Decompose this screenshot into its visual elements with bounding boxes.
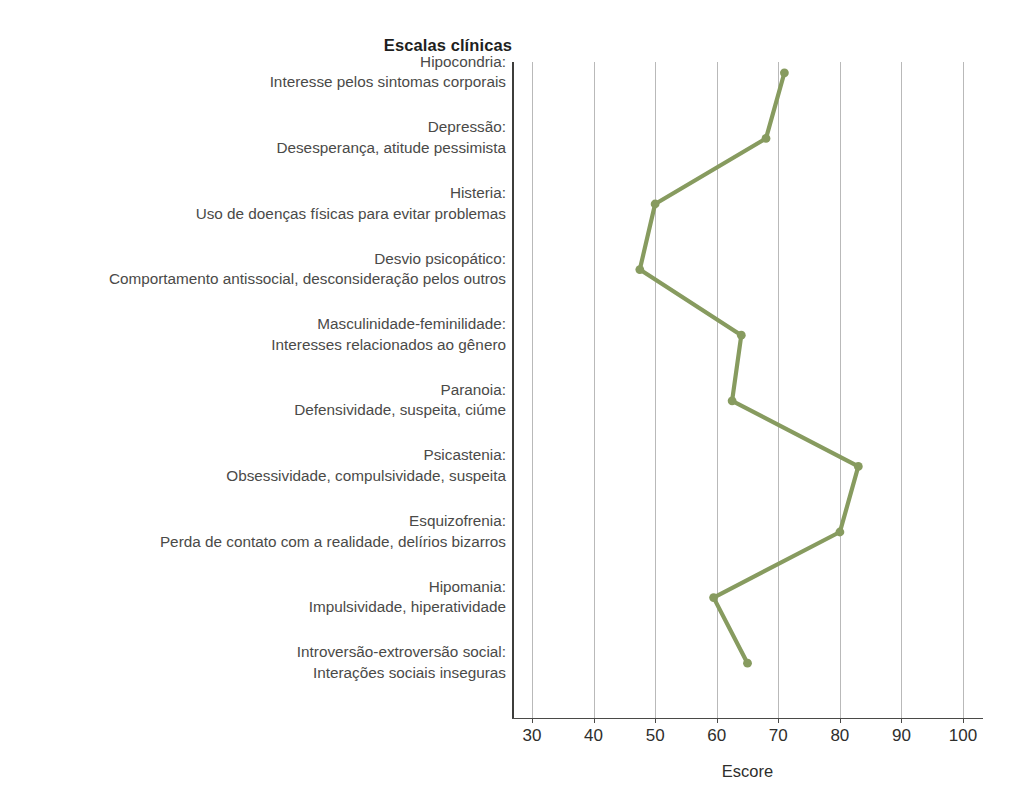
category-label: Esquizofrenia:Perda de contato com a rea… bbox=[0, 511, 506, 552]
category-description: Desesperança, atitude pessimista bbox=[0, 138, 506, 159]
category-label: Masculinidade-feminilidade:Interesses re… bbox=[0, 315, 506, 356]
gridline bbox=[778, 62, 779, 718]
category-description: Interesse pelos sintomas corporais bbox=[0, 73, 506, 94]
axis-tick bbox=[717, 718, 718, 723]
axis-tick bbox=[840, 718, 841, 723]
category-label: Desvio psicopático:Comportamento antisso… bbox=[0, 249, 506, 290]
x-tick-label: 30 bbox=[523, 726, 542, 746]
chart-page: Escalas clínicas Hipocondria:Interesse p… bbox=[0, 0, 1028, 805]
category-name: Depressão: bbox=[0, 118, 506, 139]
axis-tick bbox=[963, 718, 964, 723]
category-description: Defensividade, suspeita, ciúme bbox=[0, 401, 506, 422]
category-description: Obsessividade, compulsividade, suspeita bbox=[0, 466, 506, 487]
category-name: Histeria: bbox=[0, 183, 506, 204]
x-tick-label: 50 bbox=[646, 726, 665, 746]
category-label: Introversão-extroversão social:Interaçõe… bbox=[0, 643, 506, 684]
gridline bbox=[532, 62, 533, 718]
axis-tick bbox=[532, 718, 533, 723]
category-label: Depressão:Desesperança, atitude pessimis… bbox=[0, 118, 506, 159]
gridline bbox=[901, 62, 902, 718]
x-axis-line bbox=[512, 718, 983, 719]
gridline bbox=[655, 62, 656, 718]
x-tick-label: 70 bbox=[769, 726, 788, 746]
category-description: Interesses relacionados ao gênero bbox=[0, 335, 506, 356]
category-description: Uso de doenças físicas para evitar probl… bbox=[0, 204, 506, 225]
x-tick-label: 100 bbox=[949, 726, 977, 746]
gridline bbox=[717, 62, 718, 718]
x-tick-label: 90 bbox=[892, 726, 911, 746]
category-name: Hipocondria: bbox=[0, 52, 506, 73]
gridline bbox=[840, 62, 841, 718]
x-axis-title: Escore bbox=[512, 762, 983, 781]
axis-tick bbox=[901, 718, 902, 723]
category-label: Psicastenia:Obsessividade, compulsividad… bbox=[0, 446, 506, 487]
category-name: Esquizofrenia: bbox=[0, 511, 506, 532]
gridline bbox=[963, 62, 964, 718]
x-tick-label: 60 bbox=[707, 726, 726, 746]
gridline bbox=[594, 62, 595, 718]
y-axis-line bbox=[512, 62, 514, 719]
axis-tick bbox=[655, 718, 656, 723]
category-name: Paranoia: bbox=[0, 380, 506, 401]
category-label: Histeria:Uso de doenças físicas para evi… bbox=[0, 183, 506, 224]
category-name: Desvio psicopático: bbox=[0, 249, 506, 270]
axis-tick bbox=[594, 718, 595, 723]
category-description: Perda de contato com a realidade, delíri… bbox=[0, 532, 506, 553]
category-description: Comportamento antissocial, desconsideraç… bbox=[0, 270, 506, 291]
category-label: Hipocondria:Interesse pelos sintomas cor… bbox=[0, 52, 506, 93]
category-name: Hipomania: bbox=[0, 577, 506, 598]
category-label: Hipomania:Impulsividade, hiperatividade bbox=[0, 577, 506, 618]
axis-tick bbox=[778, 718, 779, 723]
category-description: Interações sociais inseguras bbox=[0, 663, 506, 684]
category-label: Paranoia:Defensividade, suspeita, ciúme bbox=[0, 380, 506, 421]
x-tick-label: 80 bbox=[830, 726, 849, 746]
x-tick-label: 40 bbox=[584, 726, 603, 746]
category-name: Masculinidade-feminilidade: bbox=[0, 315, 506, 336]
category-label-list: Hipocondria:Interesse pelos sintomas cor… bbox=[0, 62, 512, 718]
category-name: Introversão-extroversão social: bbox=[0, 643, 506, 664]
category-name: Psicastenia: bbox=[0, 446, 506, 467]
plot-area bbox=[512, 62, 983, 718]
category-description: Impulsividade, hiperatividade bbox=[0, 598, 506, 619]
